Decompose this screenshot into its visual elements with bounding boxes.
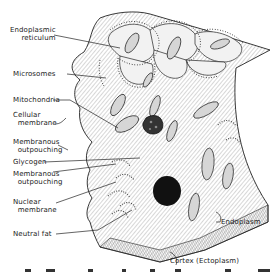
truncated-caption [0, 266, 279, 273]
nucleus [153, 176, 181, 206]
cell-diagram: Endoplasmic reticulum Microsomes Mitocho… [0, 0, 279, 273]
label-cellular-membrane: Cellular membrane [13, 112, 57, 127]
glycogen-granule [143, 116, 163, 134]
label-endoplasm: Endoplasm [221, 219, 261, 227]
label-endoplasmic-reticulum: Endoplasmic reticulum [10, 27, 56, 42]
label-neutral-fat: Neutral fat [13, 231, 52, 239]
label-membranous-outpouching-1: Membranous outpouching [13, 139, 63, 154]
label-nuclear-membrane: Nuclear membrane [13, 199, 57, 214]
label-membranous-outpouching-2: Membranous outpouching [13, 171, 63, 186]
label-microsomes: Microsomes [13, 71, 56, 79]
label-mitochondria: Mitochondria [13, 97, 60, 105]
label-glycogen: Glycogen [13, 159, 47, 167]
label-cortex: Cortex (Ectoplasm) [170, 258, 239, 266]
